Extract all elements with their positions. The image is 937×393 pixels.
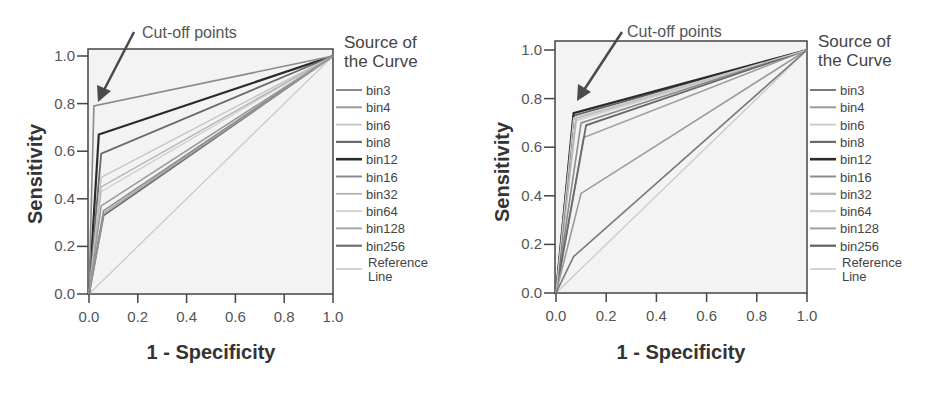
x-tick-label: 0.2 [127,308,148,325]
legend: bin3bin4bin6bin8bin12bin16bin32bin64bin1… [810,83,902,284]
roc-chart-left-svg: 0.00.20.40.60.81.0 0.00.20.40.60.81.0 Se… [0,0,468,393]
x-tick-label: 0.6 [225,308,246,325]
roc-chart-right: 0.00.20.40.60.81.0 0.00.20.40.60.81.0 Se… [468,0,936,393]
y-tick-label: 1.0 [54,47,75,64]
x-tick-label: 0.0 [79,308,100,325]
y-axis-title: Sensitivity [24,123,46,224]
x-tick-label: 0.8 [274,308,295,325]
roc-chart-left: 0.00.20.40.60.81.0 0.00.20.40.60.81.0 Se… [0,0,468,393]
legend-item-bin16: bin16 [840,170,872,185]
y-tick-label: 0.2 [54,237,75,254]
y-tick-label: 0.6 [54,142,75,159]
legend-title-line1: Source of [344,33,417,52]
legend-item-bin4: bin4 [366,100,391,115]
y-tick-label: 0.4 [54,190,75,207]
y-tick-label: 0.2 [521,235,542,252]
x-axis-title: 1 - Specificity [147,341,277,363]
legend-item-bin3: bin3 [840,83,865,98]
plot-area [88,49,333,294]
legend-item-bin256: bin256 [366,239,405,254]
legend: bin3bin4bin6bin8bin12bin16bin32bin64bin1… [336,83,428,284]
cutoff-annotation: Cut-off points [627,23,722,40]
legend-item-bin4: bin4 [840,100,865,115]
legend-item-reference-line: Reference [842,255,902,270]
x-tick-label: 0.4 [176,308,197,325]
y-tick-label: 0.0 [521,284,542,301]
x-axis: 0.00.20.40.60.81.0 [546,293,818,324]
x-tick-label: 0.2 [596,307,617,324]
y-tick-label: 1.0 [521,41,542,58]
y-tick-label: 0.0 [54,285,75,302]
x-tick-label: 0.8 [746,307,767,324]
x-tick-label: 0.6 [696,307,717,324]
y-axis-title: Sensitivity [491,121,513,222]
legend-item-bin128: bin128 [366,221,405,236]
legend-item-reference-line: Reference [368,255,428,270]
x-axis-title: 1 - Specificity [617,341,747,363]
roc-chart-right-svg: 0.00.20.40.60.81.0 0.00.20.40.60.81.0 Se… [468,0,937,393]
legend-title-line2: the Curve [818,51,892,70]
legend-item-bin64: bin64 [840,204,872,219]
y-tick-label: 0.6 [521,138,542,155]
legend-item-bin64: bin64 [366,204,398,219]
legend-item-bin256: bin256 [840,239,879,254]
y-tick-label: 0.8 [521,90,542,107]
legend-item-reference-line-2: Line [368,269,393,284]
legend-item-bin12: bin12 [840,152,872,167]
x-tick-label: 1.0 [797,307,818,324]
cutoff-annotation: Cut-off points [142,24,237,41]
legend-item-bin32: bin32 [840,187,872,202]
legend-item-bin3: bin3 [366,83,391,98]
legend-item-bin16: bin16 [366,170,398,185]
legend-item-bin6: bin6 [840,118,865,133]
y-axis: 0.00.20.40.60.81.0 [521,41,555,301]
y-tick-label: 0.8 [54,95,75,112]
x-tick-label: 0.4 [646,307,667,324]
legend-item-bin12: bin12 [366,152,398,167]
y-axis: 0.00.20.40.60.81.0 [54,47,88,302]
legend-item-bin8: bin8 [840,135,865,150]
legend-item-bin128: bin128 [840,221,879,236]
x-axis: 0.00.20.40.60.81.0 [79,294,344,325]
legend-title-line2: the Curve [344,52,418,71]
legend-item-bin6: bin6 [366,118,391,133]
y-tick-label: 0.4 [521,187,542,204]
legend-item-bin8: bin8 [366,135,391,150]
legend-item-reference-line-2: Line [842,269,867,284]
legend-title-line1: Source of [818,32,891,51]
x-tick-label: 0.0 [546,307,567,324]
legend-item-bin32: bin32 [366,187,398,202]
x-tick-label: 1.0 [323,308,344,325]
